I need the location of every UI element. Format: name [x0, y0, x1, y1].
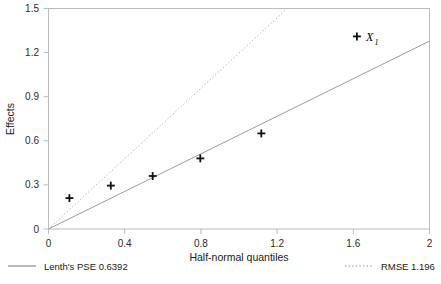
- x-axis-ticks: [49, 229, 430, 234]
- y-tick-label-0: 0: [33, 224, 39, 235]
- y-tick-label-3: 0.9: [25, 91, 39, 102]
- x-tick-label-0: 0: [46, 238, 52, 249]
- legend-label-lenth-pse: Lenth's PSE 0.6392: [44, 261, 128, 272]
- legend-label-rmse: RMSE 1.196: [381, 261, 435, 272]
- x-tick-label-2: 0.8: [194, 238, 208, 249]
- point-label-x1-subscript: 1: [375, 38, 379, 47]
- y-axis-title: Effects: [4, 103, 16, 135]
- y-tick-label-5: 1.5: [25, 3, 39, 14]
- half-normal-plot-figure: 0 0.4 0.8 1.2 1.6 2 0 0.3 0.6 0.9 1.2 1.…: [0, 0, 441, 284]
- y-tick-label-4: 1.2: [25, 47, 39, 58]
- x-tick-label-4: 1.6: [346, 238, 360, 249]
- chart-canvas: 0 0.4 0.8 1.2 1.6 2 0 0.3 0.6 0.9 1.2 1.…: [0, 0, 441, 284]
- point-label-x1-base: X: [365, 30, 374, 44]
- x-tick-label-5: 2: [427, 238, 433, 249]
- y-tick-label-1: 0.3: [25, 179, 39, 190]
- x-tick-label-3: 1.2: [270, 238, 284, 249]
- y-tick-label-2: 0.6: [25, 135, 39, 146]
- x-tick-label-1: 0.4: [118, 238, 132, 249]
- y-axis-ticks: [44, 9, 49, 230]
- x-axis-title: Half-normal quantiles: [189, 251, 288, 263]
